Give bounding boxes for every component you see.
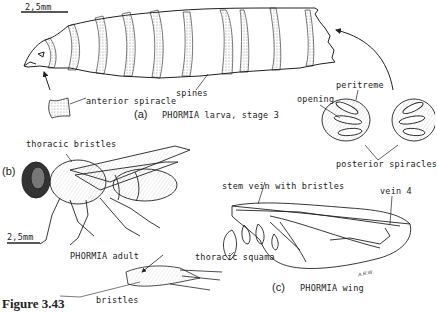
label-posterior-spiracles: posterior spiracles: [336, 159, 437, 169]
panel-a-letter: (a): [134, 108, 147, 120]
panel-c-title: PHORMIA wing: [300, 283, 364, 293]
panel-b-title: PHORMIA adult: [70, 251, 139, 261]
label-thoracic-squama: thoracic squama: [195, 252, 275, 262]
scale-bar-label-b: 2,5mm: [7, 232, 34, 242]
label-bristles: bristles: [96, 295, 139, 305]
label-thoracic-bristles: thoracic bristles: [26, 139, 116, 149]
panel-a-title: PHORMIA larva, stage 3: [162, 110, 279, 120]
scale-bar-label-a: 2,5mm: [25, 2, 52, 12]
label-spines: spines: [176, 88, 208, 98]
panel-c-letter: (c): [272, 281, 285, 293]
label-vein-4: vein 4: [380, 186, 412, 196]
label-stem-vein: stem vein with bristles: [222, 181, 344, 191]
posterior-spiracles-drawing: [320, 90, 435, 160]
figure-caption: Figure 3.43: [2, 296, 65, 312]
label-anterior-spiracle: anterior spiracle: [86, 96, 176, 106]
adult-fly-drawing: [7, 146, 190, 245]
label-peritreme: peritreme: [336, 80, 384, 90]
panel-b-letter: (b): [2, 165, 15, 177]
label-opening: opening: [297, 94, 334, 104]
